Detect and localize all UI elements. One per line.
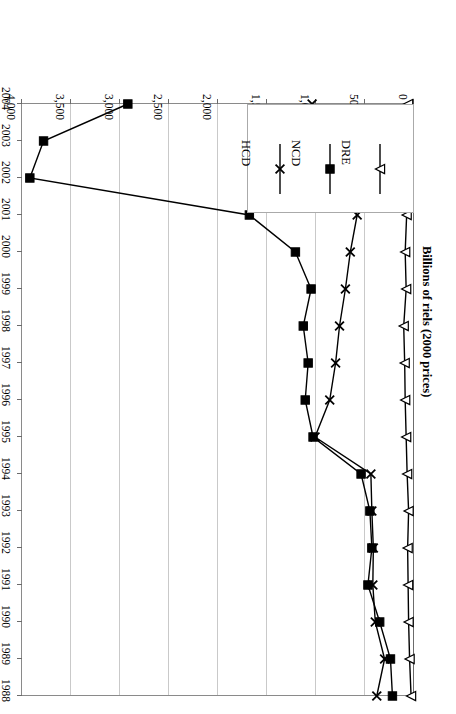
legend: HCDNCDDRE bbox=[247, 104, 414, 213]
data-point-ncd bbox=[301, 396, 309, 404]
legend-label-hcd: HCD bbox=[238, 140, 253, 166]
year-axis-tick-label: 1995 bbox=[0, 420, 12, 443]
year-axis-tick-label: 2004 bbox=[0, 87, 12, 110]
data-point-ncd bbox=[357, 470, 365, 478]
data-point-ncd bbox=[124, 100, 132, 108]
value-axis-tick-label: 0 bbox=[397, 94, 409, 100]
year-axis-tick-label: 1991 bbox=[0, 568, 12, 591]
year-axis-tick-label: 1992 bbox=[0, 531, 12, 554]
legend-label-ncd: NCD bbox=[288, 140, 303, 166]
data-point-ncd bbox=[307, 285, 315, 293]
legend-item-dre[interactable]: DRE bbox=[351, 105, 395, 212]
data-point-ncd bbox=[376, 618, 384, 626]
year-axis-tick-label: 1988 bbox=[0, 679, 12, 702]
data-point-ncd bbox=[39, 137, 47, 145]
year-axis-tick-label: 2000 bbox=[0, 235, 12, 258]
rotated-figure-container: 05001,0001,5002,0002,5003,0003,5004,000 … bbox=[0, 0, 456, 714]
year-axis-tick-label: 1994 bbox=[0, 457, 12, 480]
legend-marker-dre-icon bbox=[365, 140, 395, 198]
year-axis-tick-label: 1999 bbox=[0, 272, 12, 295]
year-axis-tick-label: 2003 bbox=[0, 124, 12, 147]
data-point-ncd bbox=[304, 359, 312, 367]
year-axis-tick-label: 2001 bbox=[0, 198, 12, 221]
chart-figure: 05001,0001,5002,0002,5003,0003,5004,000 … bbox=[0, 0, 456, 714]
year-axis-tick-label: 1993 bbox=[0, 494, 12, 517]
year-axis-tick-label: 2002 bbox=[0, 161, 12, 184]
year-axis-tick-label: 1990 bbox=[0, 605, 12, 628]
year-axis-tick-label: 1989 bbox=[0, 642, 12, 665]
data-point-ncd bbox=[366, 507, 374, 515]
data-point-ncd bbox=[368, 544, 376, 552]
year-axis-tick-label: 1998 bbox=[0, 309, 12, 332]
data-point-ncd bbox=[309, 433, 317, 441]
data-point-ncd bbox=[386, 655, 394, 663]
y-axis-title: Billions of riels (2000 prices) bbox=[419, 246, 434, 397]
data-point-ncd bbox=[364, 581, 372, 589]
legend-label-dre: DRE bbox=[338, 140, 353, 165]
year-axis-tick-label: 1996 bbox=[0, 383, 12, 406]
data-point-ncd bbox=[299, 322, 307, 330]
data-point-ncd bbox=[388, 692, 396, 700]
data-point-ncd-legend bbox=[326, 165, 334, 173]
data-point-ncd bbox=[26, 174, 34, 182]
year-axis-tick-label: 1997 bbox=[0, 346, 12, 369]
data-point-ncd bbox=[291, 248, 299, 256]
